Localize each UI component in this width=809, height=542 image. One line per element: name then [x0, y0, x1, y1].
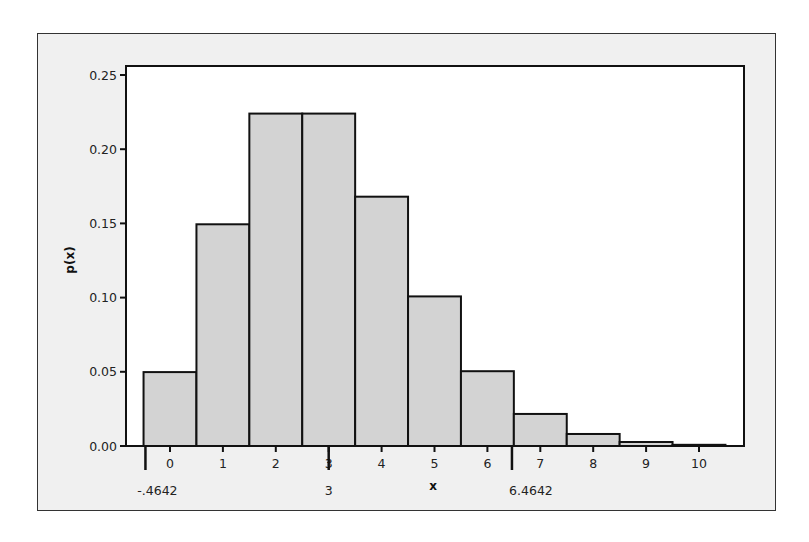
bar-5	[408, 296, 461, 446]
x-axis: 012345678910	[166, 446, 707, 471]
reference-label: -.4642	[137, 483, 177, 498]
bar-4	[355, 197, 408, 446]
bar-0	[144, 372, 197, 446]
reference-label: 3	[325, 483, 333, 498]
y-tick-label: 0.20	[89, 142, 117, 157]
bar-8	[567, 434, 620, 446]
x-tick-label: 10	[691, 456, 707, 471]
bar-1	[196, 224, 249, 446]
x-tick-label: 0	[166, 456, 174, 471]
x-axis-title: x	[429, 479, 437, 493]
bar-2	[249, 114, 302, 446]
bar-7	[514, 414, 567, 446]
bar-10	[673, 445, 726, 446]
x-tick-label: 5	[431, 456, 439, 471]
y-tick-label: 0.25	[89, 68, 117, 83]
x-tick-label: 9	[642, 456, 650, 471]
x-tick-label: 8	[589, 456, 597, 471]
bar-3	[302, 114, 355, 446]
bar-6	[461, 371, 514, 446]
y-tick-label: 0.00	[89, 439, 117, 454]
x-tick-label: 2	[272, 456, 280, 471]
annotation-markers: -.464236.4642	[137, 446, 553, 498]
y-axis-title: p(x)	[63, 246, 77, 273]
y-tick-label: 0.15	[89, 216, 117, 231]
x-tick-label: 6	[483, 456, 491, 471]
x-tick-label: 7	[536, 456, 544, 471]
y-axis: 0.000.050.100.150.200.25	[89, 68, 126, 454]
x-tick-label: 4	[378, 456, 386, 471]
x-tick-label: 1	[219, 456, 227, 471]
bar-9	[620, 442, 673, 446]
histogram-chart: 0.000.050.100.150.200.25 012345678910 -.…	[0, 0, 809, 542]
y-tick-label: 0.05	[89, 364, 117, 379]
y-tick-label: 0.10	[89, 290, 117, 305]
reference-label: 6.4642	[509, 483, 553, 498]
